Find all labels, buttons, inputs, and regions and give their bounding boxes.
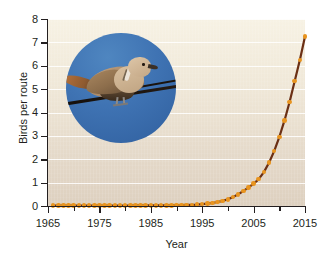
x-minor-tick [228,207,229,211]
x-minor-tick [177,207,178,211]
y-tick [41,159,47,160]
y-tick [41,206,47,207]
data-point [303,34,308,39]
data-point [246,185,251,190]
x-tick-label: 1975 [76,218,122,229]
bird-photo-inset [66,33,176,143]
y-tick-label: 5 [22,84,38,95]
x-tick [48,207,49,213]
data-point [220,199,225,204]
x-tick-label: 2015 [282,218,323,229]
y-tick [41,136,47,137]
y-tick-label: 2 [22,154,38,165]
y-tick-label: 8 [22,14,38,25]
x-tick-label: 1985 [128,218,174,229]
y-tick [41,66,47,67]
x-axis-label: Year [48,238,305,250]
bird-foot [121,103,128,106]
y-tick-label: 7 [22,37,38,48]
x-tick [202,207,203,213]
x-minor-tick [125,207,126,211]
data-point [210,201,215,206]
x-tick-label: 2005 [231,218,277,229]
y-tick-label: 3 [22,130,38,141]
x-tick-label: 1965 [25,218,71,229]
data-point [282,118,287,123]
data-point [287,100,292,105]
y-axis-line [47,19,48,207]
y-tick-label: 1 [22,177,38,188]
x-tick-label: 1995 [179,218,225,229]
x-tick [99,207,100,213]
bird-eye [142,63,145,66]
x-tick [151,207,152,213]
x-tick [254,207,255,213]
y-tick-label: 6 [22,60,38,71]
y-tick [41,89,47,90]
x-tick [305,207,306,213]
y-tick [41,113,47,114]
data-point [241,189,246,194]
data-point [277,135,282,140]
data-point [251,181,256,186]
x-minor-tick [74,207,75,211]
x-minor-tick [279,207,280,211]
y-tick-label: 0 [22,201,38,212]
data-point [226,197,231,202]
y-tick [41,183,47,184]
y-tick [41,19,47,20]
chart-figure: Birds per route Year 012345678 196519751… [0,0,323,259]
data-point [236,192,241,197]
y-tick [41,42,47,43]
y-tick-label: 4 [22,107,38,118]
